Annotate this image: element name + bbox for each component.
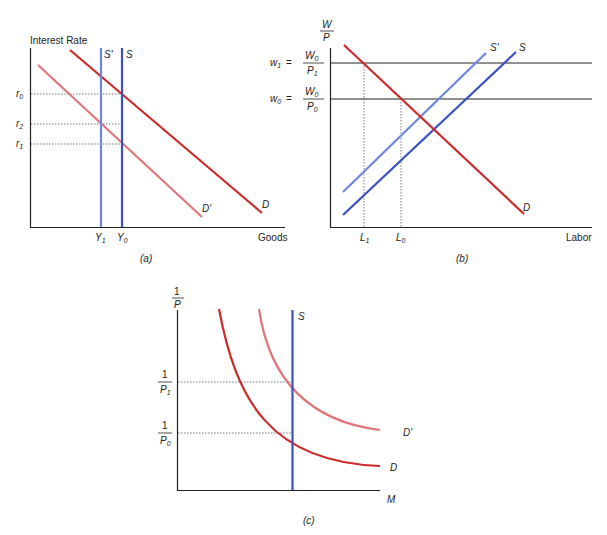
panel-a-x-axis-label: Goods [258,232,287,243]
figure-canvas: Interest Rate S' S D' D r0 r2 r1 Y1 [0,0,607,535]
svg-text:1: 1 [162,369,168,380]
svg-text:=: = [286,93,292,104]
svg-text:P1: P1 [160,384,171,396]
panel-b-tick-l1: L1 [360,232,370,244]
panel-b-supply-curve [343,52,516,215]
panel-c-y-axis-label: 1 P [172,286,184,310]
svg-text:1: 1 [174,286,180,297]
panel-c-label-d: D [390,462,397,473]
panel-a-label-s-prime: S' [104,49,114,60]
svg-text:Y0: Y0 [117,232,128,244]
panel-c-label-s: S [298,311,305,322]
svg-text:P0: P0 [160,435,171,447]
panel-c-tick-p0: 1 P0 [158,420,172,447]
panel-a-label-d: D [262,199,269,210]
panel-b-tick-w1: w1 = W0 P1 [270,50,324,77]
svg-text:w0: w0 [270,93,281,105]
panel-a-tick-r1: r1 [16,138,23,150]
svg-text:Y1: Y1 [95,232,106,244]
panel-a-caption: (a) [140,253,152,264]
svg-text:w1: w1 [270,57,281,69]
panel-b-tick-l0: L0 [396,232,406,244]
svg-text:1: 1 [162,420,168,431]
panel-a-label-s: S [126,49,133,60]
svg-text:W0: W0 [305,86,318,98]
panel-b-x-axis-label: Labor [566,232,592,243]
panel-c-label-d-prime: D' [403,427,413,438]
panel-c-tick-p1: 1 P1 [158,369,172,396]
svg-text:W: W [322,19,333,30]
svg-text:L1: L1 [360,232,370,244]
panel-a-tick-y0: Y0 [117,232,128,244]
panel-c-x-axis-label: M [387,494,396,505]
panel-a-label-d-prime: D' [202,203,212,214]
panel-c-caption: (c) [303,515,315,526]
panel-b-label-d: D [523,202,530,213]
svg-text:r1: r1 [16,138,23,150]
panel-c-money-market: 1 P S D' D 1 P1 1 P0 M (c) [158,286,413,526]
panel-b-label-s-prime: S' [490,42,500,53]
panel-b-labor-market: W P S' S D w1 = W0 P1 w0 = [270,19,592,264]
svg-text:P: P [174,299,181,310]
svg-text:r2: r2 [16,118,23,130]
panel-a-demand-curve [70,50,262,213]
svg-text:=: = [286,57,292,68]
panel-b-tick-w0: w0 = W0 P0 [270,86,324,113]
svg-text:r0: r0 [16,88,23,100]
svg-text:W0: W0 [305,50,318,62]
panel-a-tick-y1: Y1 [95,232,106,244]
svg-text:P0: P0 [307,101,318,113]
panel-c-demand-shifted-curve [259,309,380,430]
panel-b-label-s: S [519,42,526,53]
svg-text:L0: L0 [396,232,406,244]
svg-text:P1: P1 [307,65,318,77]
panel-b-supply-shifted-curve [343,53,486,192]
panel-c-demand-curve [219,309,380,466]
panel-a-y-axis-label: Interest Rate [30,35,88,46]
panel-a-goods-market: Interest Rate S' S D' D r0 r2 r1 Y1 [16,35,287,264]
svg-text:P: P [323,32,330,43]
panel-b-y-axis-label: W P [320,19,334,43]
panel-a-tick-r2: r2 [16,118,23,130]
panel-a-tick-r0: r0 [16,88,23,100]
panel-b-caption: (b) [456,253,468,264]
